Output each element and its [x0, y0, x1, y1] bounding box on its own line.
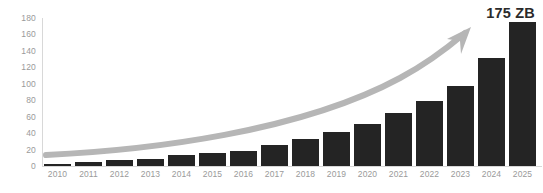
y-tick-label: 80	[26, 95, 36, 105]
bar-rect	[137, 159, 164, 166]
x-axis: 2010201120122013201420152016201720182019…	[44, 169, 542, 189]
x-tick-label: 2020	[352, 169, 383, 179]
plot-area	[44, 18, 542, 166]
x-tick-label: 2017	[259, 169, 290, 179]
x-tick-label: 2018	[290, 169, 321, 179]
bar-rect	[478, 58, 505, 166]
y-tick-label: 60	[26, 112, 36, 122]
bar-rect	[292, 139, 319, 166]
x-tick-label: 2023	[445, 169, 476, 179]
bar-rect	[230, 151, 257, 166]
x-tick-label: 2012	[104, 169, 135, 179]
x-tick-label: 2024	[476, 169, 507, 179]
x-tick-label: 2019	[321, 169, 352, 179]
x-axis-line	[42, 166, 542, 167]
bar-rect	[261, 145, 288, 166]
y-axis-line	[42, 18, 43, 167]
x-tick-label: 2015	[197, 169, 228, 179]
y-tick-label: 100	[21, 79, 36, 89]
y-tick-label: 20	[26, 145, 36, 155]
x-tick-label: 2011	[73, 169, 104, 179]
x-tick-label: 2025	[507, 169, 538, 179]
bar-rect	[509, 22, 536, 166]
bar-rect	[106, 160, 133, 166]
x-tick-label: 2022	[414, 169, 445, 179]
bar-rect	[354, 124, 381, 166]
y-tick-label: 120	[21, 62, 36, 72]
final-value-annotation: 175 ZB	[486, 5, 535, 21]
bar-chart: 020406080100120140160180 201020112012201…	[0, 0, 543, 193]
y-tick-label: 160	[21, 29, 36, 39]
y-tick-label: 40	[26, 128, 36, 138]
bar-rect	[199, 153, 226, 166]
x-tick-label: 2014	[166, 169, 197, 179]
x-tick-label: 2013	[135, 169, 166, 179]
x-tick-label: 2016	[228, 169, 259, 179]
bar-rect	[447, 86, 474, 166]
x-tick-label: 2010	[42, 169, 73, 179]
y-axis: 020406080100120140160180	[0, 0, 40, 193]
bar-rect	[385, 113, 412, 166]
bar-rect	[416, 101, 443, 166]
bar-rect	[323, 132, 350, 166]
x-tick-label: 2021	[383, 169, 414, 179]
bar-rect	[44, 164, 71, 166]
bar-rect	[75, 162, 102, 166]
y-tick-label: 0	[31, 161, 36, 171]
y-tick-label: 140	[21, 46, 36, 56]
bar-rect	[168, 155, 195, 166]
y-tick-label: 180	[21, 13, 36, 23]
